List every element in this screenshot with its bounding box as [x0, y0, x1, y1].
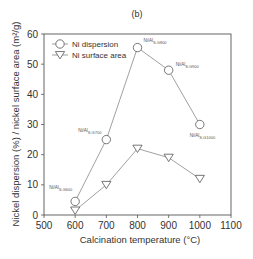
- point-annotation: Ni/AlS.G900: [176, 62, 200, 69]
- legend: Ni dispersionNi surface area: [52, 40, 127, 60]
- point-annotation: Ni/AlS.G1000: [190, 133, 216, 140]
- data-point-marker: [133, 43, 141, 51]
- data-point-marker: [196, 120, 204, 128]
- data-point-marker: [164, 66, 172, 74]
- point-annotation: Ni/AlS.G800: [144, 38, 168, 45]
- point-annotation: Ni/AlS.G700: [78, 128, 102, 135]
- x-tick-label: 800: [129, 220, 146, 231]
- y-axis-label: Nickel dispersion (%) / nickel surface a…: [10, 22, 21, 227]
- x-tick-label: 1100: [220, 220, 242, 231]
- legend-marker: [56, 40, 64, 48]
- line-chart: (b) 0102030405060 5006007008009001000110…: [0, 0, 253, 259]
- y-tick-label: 0: [32, 210, 38, 221]
- data-point-marker: [71, 197, 79, 205]
- legend-label: Ni surface area: [72, 51, 127, 60]
- series-ni-surface-area: [71, 145, 205, 214]
- y-tick-label: 30: [27, 119, 39, 130]
- legend-item: Ni dispersion: [52, 40, 118, 49]
- legend-item: Ni surface area: [52, 51, 127, 60]
- y-axis: 0102030405060: [27, 29, 44, 221]
- data-point-marker: [102, 135, 110, 143]
- legend-label: Ni dispersion: [72, 40, 118, 49]
- x-axis: 50060070080090010001100: [36, 215, 243, 231]
- x-tick-label: 700: [98, 220, 115, 231]
- point-annotations: Ni/AlS.G600Ni/AlS.G700Ni/AlS.G800Ni/AlS.…: [49, 38, 216, 193]
- x-axis-label: Calcination temperature (°C): [80, 234, 201, 245]
- y-tick-label: 40: [27, 89, 39, 100]
- data-point-marker: [164, 154, 173, 161]
- y-tick-label: 20: [27, 149, 39, 160]
- x-tick-label: 500: [36, 220, 53, 231]
- x-tick-label: 900: [160, 220, 177, 231]
- x-tick-label: 600: [67, 220, 84, 231]
- y-tick-label: 10: [27, 179, 39, 190]
- data-point-marker: [71, 207, 80, 214]
- series-ni-dispersion: [71, 43, 204, 205]
- y-tick-label: 50: [27, 59, 39, 70]
- y-tick-label: 60: [27, 29, 39, 40]
- series-line: [75, 149, 200, 211]
- chart-title: (b): [132, 9, 143, 19]
- data-point-marker: [195, 175, 204, 182]
- data-point-marker: [133, 145, 142, 152]
- series-line: [75, 48, 200, 202]
- point-annotation: Ni/AlS.G600: [49, 185, 73, 192]
- x-tick-label: 1000: [189, 220, 212, 231]
